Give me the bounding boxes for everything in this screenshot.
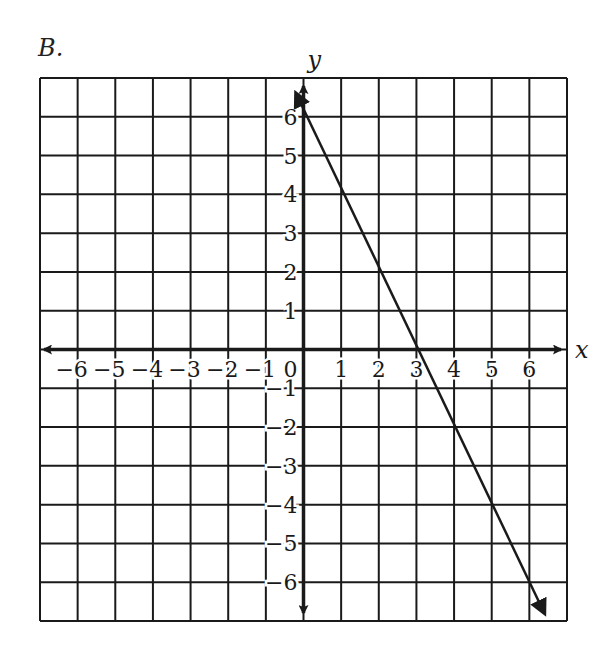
x-tick-label: −4 [131, 357, 163, 382]
line-series [296, 93, 544, 613]
x-tick-label: 6 [522, 357, 536, 382]
y-tick-label: −4 [265, 493, 297, 518]
x-tick-label: −3 [168, 357, 200, 382]
y-tick-label: 1 [284, 299, 298, 324]
x-axis-label: x [575, 336, 589, 364]
y-tick-label: −5 [265, 531, 297, 556]
y-tick-label: 2 [284, 260, 298, 285]
y-tick-label: 4 [284, 182, 298, 207]
y-tick-label: −3 [265, 454, 297, 479]
x-tick-label: 2 [372, 357, 386, 382]
y-tick-label: 5 [284, 144, 298, 169]
y-tick-label: −2 [265, 415, 297, 440]
y-tick-label: −6 [265, 570, 297, 595]
origin-label: 0 [284, 357, 298, 382]
x-tick-label: 1 [334, 357, 348, 382]
y-tick-label: 6 [284, 105, 298, 130]
coordinate-plane: xy−6−5−4−3−2−1123456−6−5−4−3−2−11234560 [0, 0, 607, 670]
x-tick-label: 3 [409, 357, 423, 382]
x-tick-label: 4 [447, 357, 461, 382]
x-tick-label: −2 [206, 357, 238, 382]
x-tick-label: 5 [485, 357, 499, 382]
y-axis-label: y [307, 46, 322, 74]
y-tick-label: 3 [284, 221, 298, 246]
x-tick-label: −5 [93, 357, 125, 382]
x-tick-label: −6 [55, 357, 87, 382]
